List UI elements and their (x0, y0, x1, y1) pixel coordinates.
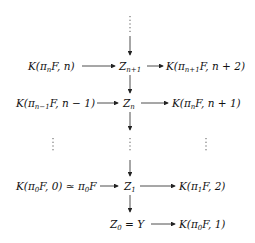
node-z-0-eq-y: Z0 = Y (110, 218, 144, 234)
node-k-pin1-n2: K(πn+1F, n + 2) (166, 60, 245, 76)
node-k-pin-n1: K(πnF, n + 1) (172, 97, 241, 113)
node-k-pin-1-n-1: K(πn−1F, n − 1) (16, 97, 95, 113)
node-z-1: Z1 (124, 180, 136, 196)
arrows-layer (0, 0, 255, 243)
node-k-pin-n: K(πnF, n) (28, 60, 75, 76)
node-k-pi1-2: K(π1F, 2) (179, 180, 225, 196)
node-z-n-plus-1: Zn+1 (119, 60, 141, 76)
node-z-n: Zn (123, 97, 135, 113)
node-k-pi0-0: K(π0F, 0) ≃ π0F (16, 180, 97, 196)
node-k-pi0-1: K(π0F, 1) (179, 218, 225, 234)
